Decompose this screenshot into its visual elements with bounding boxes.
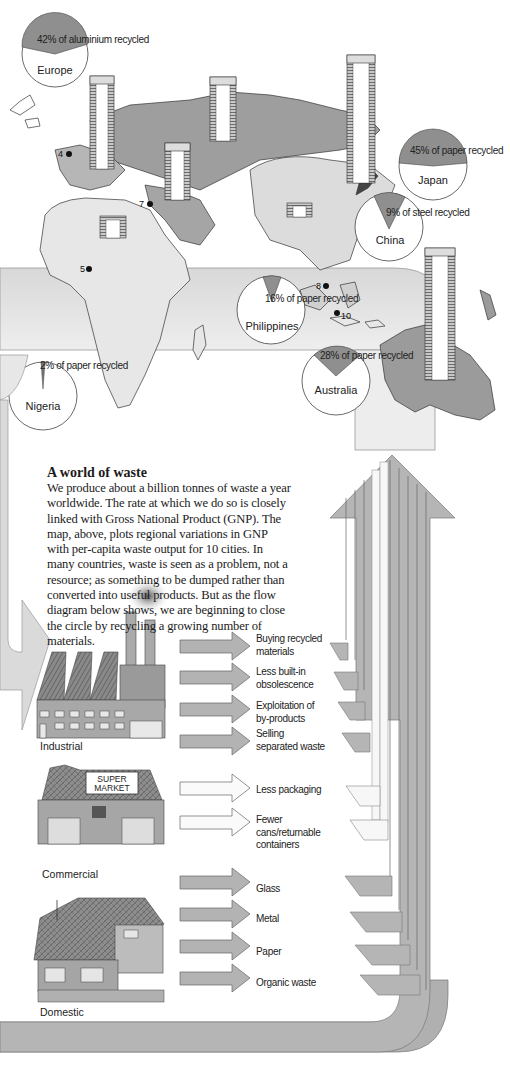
city-label: 4: [58, 149, 63, 159]
pie-region-nigeria: Nigeria: [8, 400, 78, 412]
city-label: 5: [80, 264, 85, 274]
flow-label-industrial: Selling separated waste: [256, 728, 326, 753]
pie-caption-europe: 42% of aluminium recycled: [37, 34, 149, 45]
gnp-stack-asia: [287, 203, 312, 217]
flow-label-commercial: Less packaging: [256, 784, 321, 797]
flow-label-domestic: Metal: [256, 913, 279, 926]
source-label-domestic: Domestic: [40, 1006, 84, 1018]
commercial-arrows: [180, 774, 250, 836]
source-label-industrial: Industrial: [40, 740, 83, 752]
pie-china: [355, 193, 423, 261]
house-icon: [34, 898, 164, 1002]
source-label-commercial: Commercial: [42, 868, 98, 880]
industrial-arrows: [180, 632, 250, 755]
pie-caption-japan: 45% of paper recycled: [410, 145, 503, 156]
pie-region-australia: Australia: [301, 384, 371, 396]
intro-block: A world of waste We produce about a bill…: [47, 465, 292, 649]
pie-philippines: [237, 276, 305, 344]
pie-caption-australia: 28% of paper recycled: [320, 350, 413, 361]
flow-label-commercial: Fewer cans/returnable containers: [256, 814, 344, 852]
flow-label-industrial: Buying recycled materials: [256, 633, 336, 658]
city-label: 8: [316, 281, 321, 291]
pie-region-china: China: [355, 234, 425, 246]
pie-region-europe: Europe: [20, 64, 90, 76]
domestic-arrows: [180, 868, 250, 992]
pie-region-philippines: Philippines: [237, 320, 307, 332]
intro-body: We produce about a billion tonnes of was…: [47, 481, 292, 649]
gnp-stack-africa: [100, 216, 126, 238]
flow-label-industrial: Exploitation of by-products: [256, 700, 326, 725]
supermarket-sign: SUPER MARKET: [88, 775, 136, 793]
intro-title: A world of waste: [47, 465, 292, 481]
gnp-stack-middle-east: [165, 143, 190, 200]
flow-label-domestic: Organic waste: [256, 977, 316, 990]
gnp-stack-russia: [210, 77, 236, 141]
pie-caption-nigeria: 2% of paper recycled: [40, 360, 128, 371]
city-label: 7: [139, 199, 144, 209]
flow-label-domestic: Paper: [256, 946, 281, 959]
pie-caption-china: 9% of steel recycled: [386, 207, 470, 218]
flow-label-domestic: Glass: [256, 883, 280, 896]
gnp-stack-australia: [425, 248, 455, 380]
pie-region-japan: Japan: [398, 174, 468, 186]
city-label: 10: [341, 311, 351, 321]
gnp-stack-europe: [90, 76, 114, 169]
pie-caption-philippines: 16% of paper recycled: [265, 293, 358, 304]
pie-japan: [399, 129, 467, 200]
gnp-stack-japan: [347, 55, 375, 183]
flow-label-industrial: Less built-in obsolescence: [256, 666, 326, 691]
